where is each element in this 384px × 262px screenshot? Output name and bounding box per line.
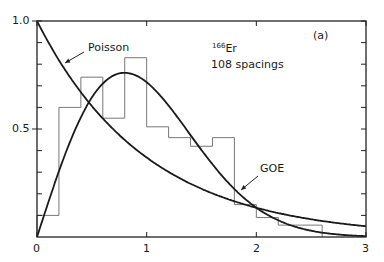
isotope-symbol: Er <box>225 42 236 55</box>
x-tick-label-2: 2 <box>253 243 260 254</box>
panel-label: (a) <box>313 30 328 41</box>
x-tick-label-1: 1 <box>143 243 150 254</box>
plot-frame <box>37 21 366 237</box>
x-tick-label-3: 3 <box>362 243 369 254</box>
poisson-curve-label: Poisson <box>88 42 129 53</box>
y-tick-label-0.5: 0.5 <box>12 123 30 134</box>
isotope-mass: 166 <box>212 42 225 50</box>
label-arrows <box>65 52 258 190</box>
spacings-annotation: 108 spacings <box>211 59 284 70</box>
histogram <box>37 58 322 237</box>
x-tick-label-0: 0 <box>33 243 40 254</box>
goe-curve <box>37 73 366 237</box>
isotope-annotation: 166Er <box>212 43 237 54</box>
histogram-steps <box>37 58 322 237</box>
curves <box>37 21 366 237</box>
y-tick-label-1.0: 1.0 <box>12 15 30 26</box>
goe-curve-label: GOE <box>260 163 284 174</box>
poisson-curve <box>37 21 366 226</box>
